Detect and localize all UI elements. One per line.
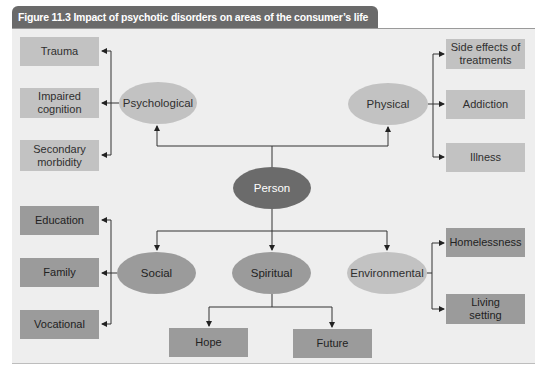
node-living-setting-label: Living setting bbox=[461, 296, 511, 322]
node-spiritual: Spiritual bbox=[232, 252, 311, 294]
node-side-effects: Side effects of treatments bbox=[446, 39, 525, 69]
node-homelessness: Homelessness bbox=[446, 228, 525, 257]
node-side-effects-label: Side effects of treatments bbox=[447, 41, 525, 67]
node-social: Social bbox=[117, 252, 196, 294]
node-addiction: Addiction bbox=[446, 90, 525, 119]
node-secondary-morbidity-label: Secondary morbidity bbox=[25, 143, 95, 169]
node-hope: Hope bbox=[169, 328, 248, 357]
node-trauma: Trauma bbox=[20, 37, 99, 66]
node-future: Future bbox=[293, 329, 372, 358]
node-psychological: Psychological bbox=[119, 82, 197, 124]
node-family: Family bbox=[20, 258, 99, 287]
node-vocational: Vocational bbox=[20, 310, 99, 339]
node-physical: Physical bbox=[348, 83, 428, 125]
node-illness: Illness bbox=[446, 143, 525, 172]
node-impaired-cognition: Impaired cognition bbox=[20, 88, 99, 118]
node-living-setting: Living setting bbox=[446, 294, 525, 324]
node-impaired-cognition-label: Impaired cognition bbox=[30, 90, 90, 116]
node-person: Person bbox=[233, 167, 311, 209]
node-education: Education bbox=[20, 206, 99, 235]
node-secondary-morbidity: Secondary morbidity bbox=[20, 140, 99, 171]
node-environmental: Environmental bbox=[347, 252, 427, 294]
